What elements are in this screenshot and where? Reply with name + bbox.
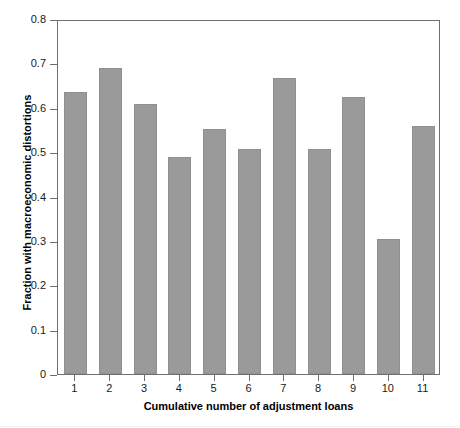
x-axis-tick — [388, 375, 389, 381]
bar — [203, 129, 226, 374]
bar — [342, 97, 365, 374]
plot-area — [57, 20, 440, 375]
bar — [134, 104, 157, 374]
y-axis-tick — [50, 331, 57, 332]
bar — [238, 149, 261, 374]
bar — [99, 68, 122, 374]
bar — [412, 126, 435, 374]
bar — [273, 78, 296, 374]
y-axis-tick-label: 0.8 — [4, 14, 46, 25]
y-axis-tick — [50, 64, 57, 65]
bar — [168, 157, 191, 374]
y-axis-tick — [50, 153, 57, 154]
x-axis-tick — [353, 375, 354, 381]
x-axis-title: Cumulative number of adjustment loans — [57, 401, 440, 412]
page-edge-artifact — [0, 426, 460, 427]
x-axis-tick — [144, 375, 145, 381]
x-axis-tick-label: 11 — [403, 383, 443, 394]
x-axis-tick — [74, 375, 75, 381]
x-axis-tick — [214, 375, 215, 381]
bar — [308, 149, 331, 374]
bar-series — [58, 21, 439, 374]
x-axis-tick — [249, 375, 250, 381]
x-axis-tick — [179, 375, 180, 381]
x-axis-tick — [109, 375, 110, 381]
x-axis-tick — [283, 375, 284, 381]
y-axis-tick — [50, 198, 57, 199]
bar — [64, 92, 87, 374]
x-axis-tick — [423, 375, 424, 381]
y-axis-title: Fraction with macroeconomic distortions — [22, 25, 33, 380]
y-axis-tick — [50, 242, 57, 243]
y-axis-tick — [50, 20, 57, 21]
x-axis-tick — [318, 375, 319, 381]
y-axis-tick — [50, 375, 57, 376]
bar — [377, 239, 400, 374]
bar-chart-figure: 00.10.20.30.40.50.60.70.8 1234567891011 … — [0, 0, 460, 428]
y-axis-tick — [50, 109, 57, 110]
y-axis-tick — [50, 286, 57, 287]
